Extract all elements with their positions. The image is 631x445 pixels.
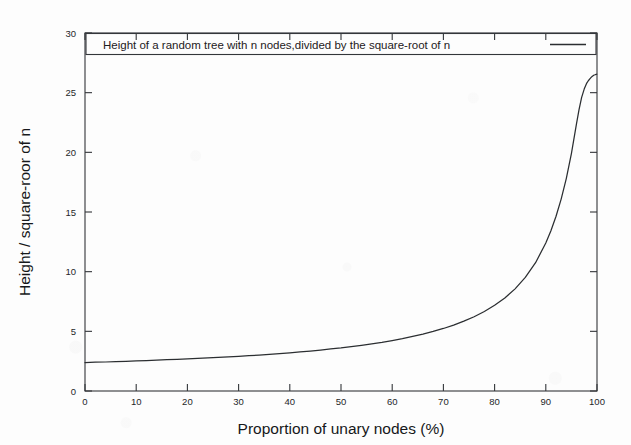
x-tick-label: 40: [285, 396, 296, 407]
y-axis-title: Height / square-roor of n: [16, 128, 33, 296]
y-tick-label: 30: [65, 28, 76, 39]
x-tick-label: 10: [131, 396, 142, 407]
plot-canvas: 051015202530 0102030405060708090100 Heig…: [0, 0, 631, 445]
data-series-group: [85, 74, 597, 362]
x-axis-title: Proportion of unary nodes (%): [238, 420, 445, 437]
x-axis-ticks: [85, 33, 597, 391]
y-tick-label: 20: [65, 147, 76, 158]
y-axis-ticks: [85, 33, 597, 391]
x-tick-label: 30: [233, 396, 244, 407]
x-axis-tick-labels: 0102030405060708090100: [82, 396, 605, 407]
data-curve: [85, 74, 597, 362]
y-axis-tick-labels: 051015202530: [65, 28, 76, 397]
y-tick-label: 5: [71, 326, 76, 337]
x-tick-label: 0: [82, 396, 87, 407]
x-tick-label: 50: [336, 396, 347, 407]
x-tick-label: 80: [489, 396, 500, 407]
x-tick-label: 20: [182, 396, 193, 407]
y-tick-label: 15: [65, 207, 76, 218]
x-tick-label: 70: [438, 396, 449, 407]
x-tick-label: 60: [387, 396, 398, 407]
x-tick-label: 100: [589, 396, 605, 407]
legend-label-text: Height of a random tree with n nodes,div…: [103, 39, 450, 51]
y-tick-label: 0: [71, 386, 76, 397]
y-tick-label: 25: [65, 87, 76, 98]
y-tick-label: 10: [65, 266, 76, 277]
plot-frame: [85, 33, 597, 391]
x-tick-label: 90: [541, 396, 552, 407]
chart-figure: 051015202530 0102030405060708090100 Heig…: [0, 0, 631, 445]
